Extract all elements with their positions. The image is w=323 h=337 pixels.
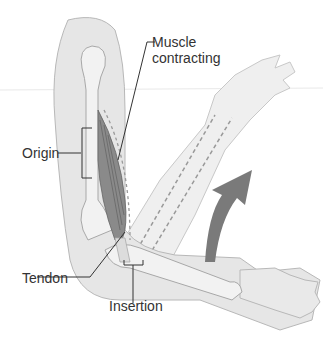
- label-insertion: Insertion: [109, 298, 163, 314]
- raised-forearm-ghost: [110, 55, 295, 262]
- flexion-arrow: [205, 170, 252, 262]
- label-muscle-line1: Muscle: [152, 34, 220, 50]
- label-muscle-line2: contracting: [152, 50, 220, 66]
- label-tendon: Tendon: [22, 270, 68, 286]
- label-muscle-contracting: Muscle contracting: [152, 34, 220, 66]
- label-origin: Origin: [22, 145, 59, 161]
